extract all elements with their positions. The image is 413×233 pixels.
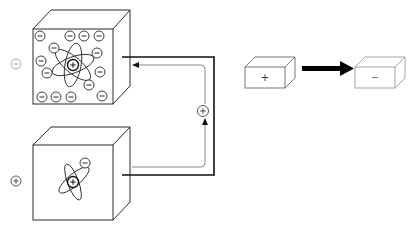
electron-icon — [84, 80, 94, 90]
electron-icon — [80, 158, 90, 168]
schematic-arrow-icon — [302, 61, 354, 76]
charge-transfer-diagram: + − — [0, 0, 413, 233]
electron-icon — [97, 91, 107, 101]
bottom-cube-side-face — [113, 127, 130, 220]
arrowhead-left-icon — [132, 62, 139, 68]
electron-icon — [35, 31, 45, 41]
nucleus-icon — [68, 60, 79, 71]
positive-ion-icon — [11, 176, 21, 186]
bottom-cube — [33, 127, 130, 220]
schematic-right-symbol: − — [371, 72, 379, 83]
nucleus-icon — [68, 177, 79, 188]
electron-icon — [95, 67, 105, 77]
negative-ion-icon — [11, 59, 21, 69]
electron-icon — [49, 43, 59, 53]
circuit-positive-carrier — [198, 106, 209, 117]
inner-current-path — [132, 119, 205, 167]
bottom-electrons — [80, 158, 90, 168]
electron-icon — [94, 31, 104, 41]
top-cube-top-face — [33, 10, 130, 29]
top-nucleus — [68, 60, 79, 71]
bottom-nucleus — [68, 177, 79, 188]
positive-carrier-icon — [198, 106, 209, 117]
electron-icon — [36, 56, 46, 66]
electron-icon — [37, 92, 47, 102]
inner-current-path-top — [138, 65, 205, 104]
top-outside-ion — [11, 59, 21, 69]
arrowhead-up-icon — [202, 118, 208, 125]
schematic-left-box — [245, 57, 295, 88]
electron-icon — [65, 31, 75, 41]
bottom-outside-ion — [11, 176, 21, 186]
schematic-right-box — [355, 57, 405, 88]
electron-icon — [42, 68, 52, 78]
electron-icon — [66, 92, 76, 102]
bottom-cube-top-face — [33, 127, 130, 145]
electron-icon — [79, 31, 89, 41]
schematic-left-symbol: + — [261, 72, 269, 83]
electron-icon — [51, 92, 61, 102]
electron-icon — [92, 48, 102, 58]
